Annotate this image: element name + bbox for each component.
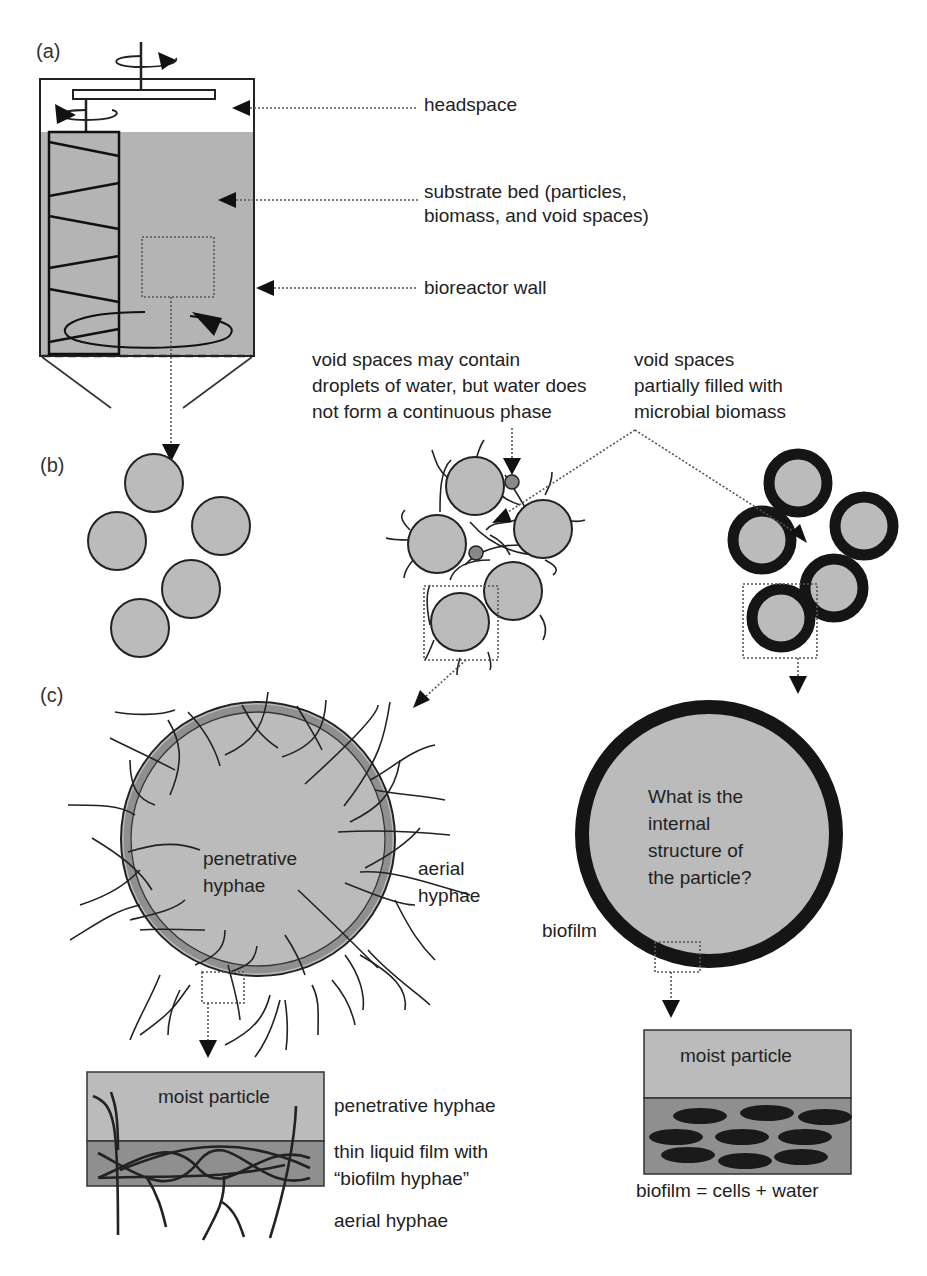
dry-particle-group — [88, 454, 250, 657]
rotation-arrow-screw-icon — [55, 104, 76, 124]
biofilm-particle — [835, 497, 893, 555]
label-penetrative-hyphae-line1: penetrative — [203, 848, 297, 869]
particle — [514, 500, 572, 558]
left-detail-moist-particle: moist particle — [158, 1086, 270, 1107]
particle — [484, 562, 542, 620]
biofilm-particle — [582, 707, 836, 961]
question-line1: What is the — [648, 786, 743, 807]
panel-label-c: (c) — [40, 684, 63, 706]
biomass-note-line2: partially filled with — [634, 375, 783, 396]
rotating-arm — [73, 90, 215, 99]
label-detail-penetrative-hyphae: penetrative hyphae — [334, 1095, 496, 1116]
arrow-down-icon — [503, 458, 521, 475]
cone-left — [42, 357, 111, 408]
particle — [125, 454, 183, 512]
particle — [88, 512, 146, 570]
sample-region-box — [202, 972, 244, 1003]
label-detail-liquid-film-line2: “biofilm hyphae” — [334, 1168, 469, 1189]
question-line4: the particle? — [648, 867, 752, 888]
panel-label-a: (a) — [36, 40, 60, 62]
label-aerial-hyphae-line2: hyphae — [418, 885, 480, 906]
label-substrate-bed-line1: substrate bed (particles, — [424, 181, 627, 202]
droplets-note-line1: void spaces may contain — [312, 349, 520, 370]
arrow-left-icon — [256, 280, 274, 296]
panel-label-b: (b) — [40, 454, 64, 476]
label-detail-aerial-hyphae: aerial hyphae — [334, 1210, 448, 1231]
biofilm-particle — [752, 589, 810, 647]
question-line2: internal — [648, 813, 710, 834]
biomass-note-line3: microbial biomass — [634, 401, 786, 422]
particle — [111, 599, 169, 657]
right-detail-moist-particle: moist particle — [680, 1045, 792, 1066]
biofilm-particle — [769, 454, 827, 512]
arrow-icon — [413, 690, 430, 708]
particle — [162, 560, 220, 618]
question-line3: structure of — [648, 840, 744, 861]
label-biofilm: biofilm — [542, 920, 597, 941]
particle — [121, 702, 395, 976]
hyphae-particle-group — [386, 440, 585, 675]
arrow-icon — [492, 508, 512, 523]
label-headspace: headspace — [424, 94, 517, 115]
caption-biofilm-cells-water: biofilm = cells + water — [636, 1180, 819, 1201]
rotation-arrow-top-icon — [158, 52, 176, 70]
water-droplet — [505, 475, 519, 489]
particle — [192, 497, 250, 555]
biofilm-particle-group — [733, 454, 893, 658]
label-substrate-bed-line2: biomass, and void spaces) — [424, 205, 649, 226]
biomass-note-line1: void spaces — [634, 349, 734, 370]
label-penetrative-hyphae-line2: hyphae — [203, 875, 265, 896]
arrow-down-icon — [789, 676, 807, 694]
solid-state-bioreactor-diagram: (a) — [0, 0, 927, 1276]
droplets-note-line2: droplets of water, but water does — [312, 375, 587, 396]
cone-right — [183, 357, 252, 408]
label-bioreactor-wall: bioreactor wall — [424, 277, 547, 298]
biofilm-covered-particle — [582, 707, 836, 1018]
particle — [446, 457, 504, 515]
particle — [408, 515, 466, 573]
bioreactor-vessel — [40, 42, 254, 462]
arrow-down-icon — [662, 1000, 680, 1018]
label-aerial-hyphae-line1: aerial — [418, 858, 464, 879]
label-detail-liquid-film-line1: thin liquid film with — [334, 1141, 488, 1162]
arrow-left-icon — [232, 100, 250, 116]
particle — [431, 593, 489, 651]
microbial-cells — [649, 1105, 852, 1169]
water-droplet — [469, 546, 483, 560]
droplets-note-line3: not form a continuous phase — [312, 401, 552, 422]
arrow-down-icon — [199, 1040, 217, 1058]
hyphae-covered-particle — [68, 692, 470, 1058]
biofilm-particle — [733, 511, 791, 569]
